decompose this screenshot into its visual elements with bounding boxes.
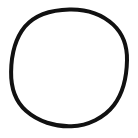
canvas-background (0, 0, 138, 138)
drawing-canvas: Hand-drawn black circle outline on a pla… (0, 0, 138, 138)
hand-drawn-circle-svg (0, 0, 138, 138)
